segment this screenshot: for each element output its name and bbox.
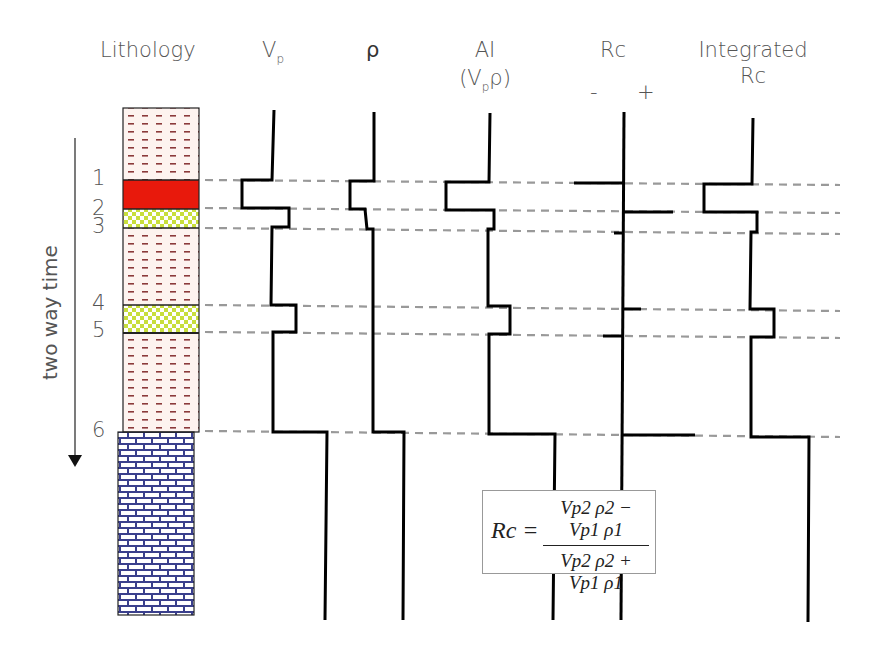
reflection-coefficient-formula: Rc = Vp2 ρ2 − Vp1 ρ1 Vp2 ρ2 + Vp1 ρ1 xyxy=(482,490,656,574)
rho-trace xyxy=(350,112,404,620)
diagram-canvas xyxy=(0,0,873,650)
formula-denominator: Vp2 ρ2 + Vp1 ρ1 xyxy=(543,550,649,594)
formula-lhs: Rc = xyxy=(491,517,539,544)
formula-numerator: Vp2 ρ2 − Vp1 ρ1 xyxy=(543,497,649,541)
time-axis-arrow xyxy=(68,138,82,467)
lithology-column xyxy=(118,108,199,615)
integrated-rc-trace xyxy=(704,118,809,622)
fraction-bar xyxy=(543,545,649,546)
boundary-guides xyxy=(205,180,840,437)
formula-fraction: Vp2 ρ2 − Vp1 ρ1 Vp2 ρ2 + Vp1 ρ1 xyxy=(543,497,649,594)
vp-trace xyxy=(242,110,327,620)
